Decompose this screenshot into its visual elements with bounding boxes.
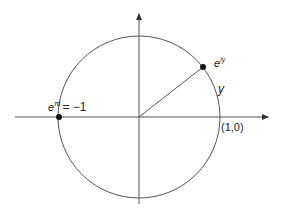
unit-circle-diagram — [0, 0, 281, 212]
label-e-pi-i: eπi= −1 — [48, 101, 86, 113]
radius-line — [139, 67, 203, 117]
point-negative-one — [56, 114, 62, 120]
label-e-pi-i-exponent: πi — [54, 100, 60, 107]
label-e-iy: eiy — [214, 58, 225, 69]
point-e-iy — [200, 64, 206, 70]
label-e-pi-i-value: = −1 — [62, 100, 86, 114]
label-arc-y: y — [218, 83, 224, 95]
label-e-iy-exponent: iy — [220, 56, 225, 63]
label-unit-point: (1,0) — [221, 122, 244, 133]
